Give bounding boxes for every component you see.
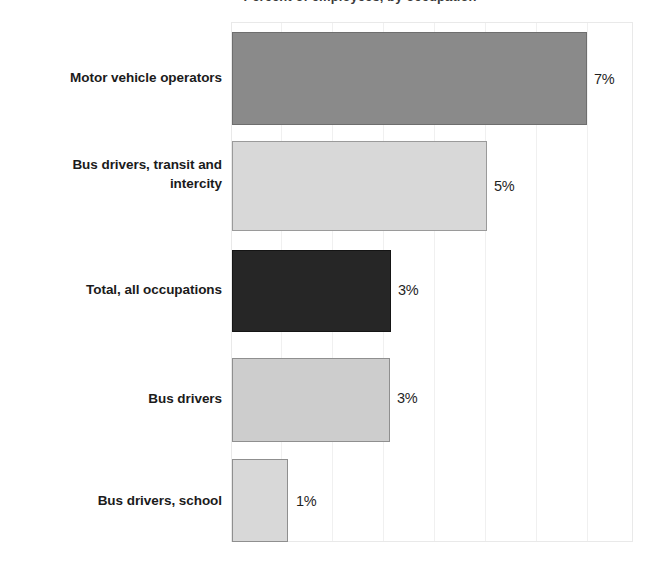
- value-label-total-all-occupations: 3%: [398, 282, 419, 298]
- category-label-line: Bus drivers, transit and: [0, 155, 222, 174]
- value-label-bus-drivers-school: 1%: [296, 493, 317, 509]
- bar-bus-drivers-school: [232, 459, 288, 542]
- bar-total-all-occupations: [232, 250, 391, 332]
- bar-motor-vehicle-operators: [232, 32, 587, 125]
- category-label-line: intercity: [0, 174, 222, 193]
- category-label-line: Motor vehicle operators: [0, 68, 222, 87]
- chart-title: Percent of employees, by occupation: [150, 0, 570, 5]
- bar-chart-figure: Percent of employees, by occupation Moto…: [0, 0, 662, 568]
- category-label-motor-vehicle-operators: Motor vehicle operators: [0, 68, 222, 87]
- category-label-line: Bus drivers, school: [0, 491, 222, 510]
- category-label-line: Total, all occupations: [0, 280, 222, 299]
- category-label-bus-drivers-transit-and-intercity: Bus drivers, transit and intercity: [0, 155, 222, 193]
- category-label-total-all-occupations: Total, all occupations: [0, 280, 222, 299]
- category-label-line: Bus drivers: [0, 389, 222, 408]
- value-label-bus-drivers-transit-and-intercity: 5%: [494, 178, 515, 194]
- bar-bus-drivers-transit-and-intercity: [232, 141, 487, 231]
- value-label-bus-drivers: 3%: [397, 390, 418, 406]
- plot-area: [231, 22, 633, 542]
- gridline-7: [587, 23, 588, 541]
- value-label-motor-vehicle-operators: 7%: [594, 71, 615, 87]
- category-label-bus-drivers-school: Bus drivers, school: [0, 491, 222, 510]
- category-label-bus-drivers: Bus drivers: [0, 389, 222, 408]
- bar-bus-drivers: [232, 358, 390, 442]
